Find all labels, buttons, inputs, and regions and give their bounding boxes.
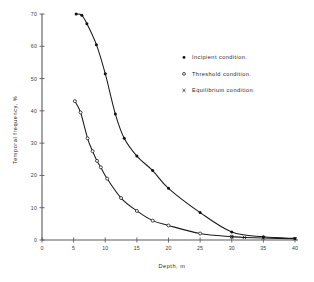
x-tick-label: 20 xyxy=(165,245,171,251)
data-point-open-circle xyxy=(106,177,109,180)
x-tick-label: 35 xyxy=(260,245,266,251)
y-tick-label: 50 xyxy=(31,76,37,82)
data-point-open-circle xyxy=(99,166,102,169)
legend-item-label: Equilibrium condition. xyxy=(192,87,255,93)
y-tick-label: 30 xyxy=(31,140,37,146)
x-tick-label: 5 xyxy=(72,245,75,251)
data-point-filled-circle xyxy=(95,43,98,46)
chart-legend: Incipient condition.Threshold condition.… xyxy=(182,54,255,93)
x-tick-label: 30 xyxy=(229,245,235,251)
y-tick-label: 0 xyxy=(34,237,37,243)
data-point-filled-circle xyxy=(123,137,126,140)
y-tick-label: 40 xyxy=(31,108,37,114)
data-point-open-circle xyxy=(183,72,186,75)
x-tick-label: 0 xyxy=(40,245,43,251)
data-point-filled-circle xyxy=(167,187,170,190)
data-point-filled-circle xyxy=(85,22,88,25)
data-point-open-circle xyxy=(199,232,202,235)
data-point-open-circle xyxy=(167,224,170,227)
x-tick-label: 15 xyxy=(134,245,140,251)
legend-item-2: Equilibrium condition. xyxy=(182,87,255,93)
data-point-filled-circle xyxy=(114,113,117,116)
x-tick-label: 25 xyxy=(197,245,203,251)
x-tick-label: 40 xyxy=(292,245,298,251)
y-tick-label: 70 xyxy=(31,11,37,17)
data-point-filled-circle xyxy=(104,72,107,75)
legend-item-label: Threshold condition. xyxy=(192,71,251,77)
y-axis-title: Temporal frequency, % xyxy=(12,96,18,164)
data-point-filled-circle xyxy=(80,14,83,17)
y-tick-label: 20 xyxy=(31,172,37,178)
temporal-frequency-vs-depth-plot: 010203040506070 0510152025303540 Tempora… xyxy=(0,0,314,282)
data-point-open-circle xyxy=(135,209,138,212)
data-point-open-circle xyxy=(79,111,82,114)
data-point-filled-circle xyxy=(183,56,186,59)
data-point-open-circle xyxy=(86,137,89,140)
data-point-filled-circle xyxy=(135,155,138,158)
data-point-filled-circle xyxy=(151,169,154,172)
legend-item-0: Incipient condition. xyxy=(183,54,248,60)
x-tick-label: 10 xyxy=(102,245,108,251)
data-point-open-circle xyxy=(151,219,154,222)
x-axis-title: Depth, m xyxy=(158,263,185,269)
data-point-filled-circle xyxy=(75,13,78,16)
legend-item-label: Incipient condition. xyxy=(192,54,247,60)
data-point-open-circle xyxy=(96,159,99,162)
data-point-filled-circle xyxy=(199,211,202,214)
y-tick-label: 60 xyxy=(31,43,37,49)
y-tick-label: 10 xyxy=(31,205,37,211)
data-point-open-circle xyxy=(120,197,123,200)
data-point-filled-circle xyxy=(230,230,233,233)
data-point-open-circle xyxy=(91,150,94,153)
data-point-open-circle xyxy=(73,100,76,103)
chart-figure: 010203040506070 0510152025303540 Tempora… xyxy=(0,0,314,282)
legend-item-1: Threshold condition. xyxy=(183,71,252,77)
